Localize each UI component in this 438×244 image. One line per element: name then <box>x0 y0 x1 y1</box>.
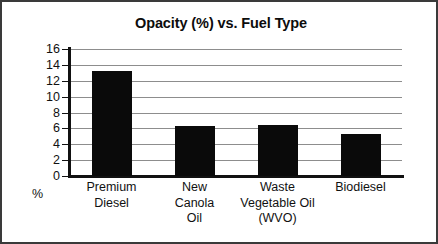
y-tick-label: 6 <box>8 121 60 135</box>
y-tick-label: 10 <box>8 90 60 104</box>
x-category-label-line: Canola <box>153 196 236 212</box>
chart-title: Opacity (%) vs. Fuel Type <box>2 15 438 31</box>
y-axis-unit-label: % <box>32 187 43 201</box>
x-category-label-line: Vegetable Oil <box>236 196 319 212</box>
bar <box>92 71 132 176</box>
x-category-label-line: (WVO) <box>236 211 319 227</box>
x-category-label-line: Diesel <box>70 196 153 212</box>
y-tick-label: 0 <box>8 169 60 183</box>
x-category-label: Biodiesel <box>319 180 402 196</box>
x-category-label: PremiumDiesel <box>70 180 153 211</box>
y-axis-tick-labels: 0246810121416 <box>2 2 60 244</box>
bar <box>175 126 215 176</box>
bar <box>341 134 381 176</box>
chart-figure: Opacity (%) vs. Fuel Type 0246810121416 … <box>0 0 438 244</box>
x-category-label-line: Premium <box>70 180 153 196</box>
y-tick-label: 12 <box>8 74 60 88</box>
bar <box>258 125 298 176</box>
x-category-label: WasteVegetable Oil(WVO) <box>236 180 319 227</box>
x-category-label-line: Oil <box>153 211 236 227</box>
y-tick-label: 4 <box>8 137 60 151</box>
x-category-label-line: New <box>153 180 236 196</box>
plot-area <box>70 49 402 176</box>
y-tick-label: 2 <box>8 153 60 167</box>
y-tick-label: 14 <box>8 58 60 72</box>
x-category-label-line: Biodiesel <box>319 180 402 196</box>
x-category-label: NewCanolaOil <box>153 180 236 227</box>
x-axis-category-labels: PremiumDieselNewCanolaOilWasteVegetable … <box>70 180 402 244</box>
x-category-label-line: Waste <box>236 180 319 196</box>
y-tick-label: 16 <box>8 42 60 56</box>
y-tick-label: 8 <box>8 106 60 120</box>
